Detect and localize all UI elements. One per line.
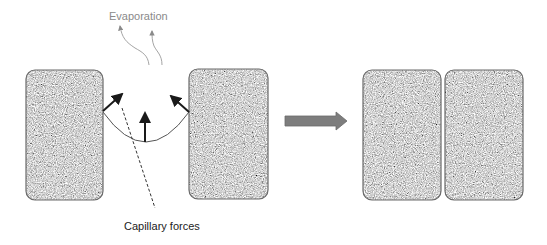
evaporation-label: Evaporation — [109, 10, 168, 22]
capillary-pointer-line — [122, 108, 155, 208]
particle-contact-left — [363, 70, 441, 200]
particle-right — [189, 69, 268, 199]
diagram-canvas — [0, 0, 547, 245]
capillary-forces-label: Capillary forces — [124, 220, 200, 232]
particle-left — [26, 70, 103, 200]
force-arrow-right-icon — [171, 96, 189, 112]
vapor-arrow-right-icon — [152, 31, 162, 65]
particle-contact-right — [445, 70, 523, 200]
force-arrow-left-icon — [103, 94, 122, 111]
vapor-arrow-left-icon — [120, 26, 149, 65]
process-arrow-icon — [285, 112, 347, 130]
